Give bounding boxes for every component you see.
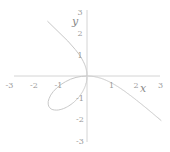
- x-tick-label: -1: [55, 81, 63, 90]
- y-tick-label: 2: [77, 29, 82, 38]
- x-tick-label: -2: [30, 81, 38, 90]
- y-tick-label: -2: [76, 115, 84, 124]
- folium-curve: [47, 21, 161, 121]
- x-tick-label: 3: [158, 81, 163, 90]
- y-tick-label: 1: [77, 51, 82, 60]
- y-tick-label: -3: [76, 137, 84, 146]
- x-axis-label: x: [140, 82, 147, 95]
- chart: -3-2-1123 321-1-2-3 x y: [0, 0, 170, 152]
- x-tick-label: 2: [133, 81, 138, 90]
- x-tick-label: 1: [109, 81, 114, 90]
- y-tick-label: -1: [76, 94, 84, 103]
- x-tick-label: -3: [6, 81, 14, 90]
- y-axis-label: y: [71, 15, 79, 28]
